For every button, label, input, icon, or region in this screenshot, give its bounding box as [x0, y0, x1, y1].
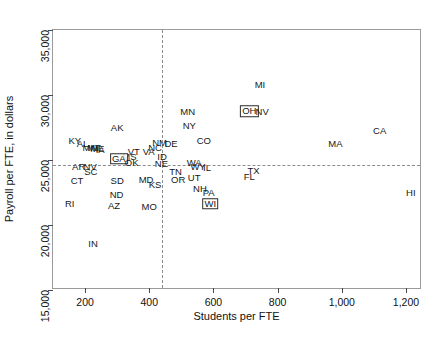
data-point-label: VA — [143, 147, 155, 157]
data-point-label: KS — [149, 180, 162, 190]
x-axis-tick-label: 1,000 — [329, 296, 355, 308]
data-point-label: AZ — [108, 201, 120, 211]
horizontal-reference-line — [53, 165, 420, 166]
data-point-label: ND — [110, 190, 124, 200]
x-axis-tick — [213, 288, 214, 293]
data-point-label: FL — [244, 172, 255, 182]
y-axis-tick-label: 30,000 — [39, 95, 51, 127]
x-axis-tick-label: 200 — [76, 296, 94, 308]
data-point-label: IL — [203, 163, 211, 173]
data-point-label: HI — [406, 188, 416, 198]
y-axis-title: Payroll per FTE, in dollars — [2, 29, 16, 289]
data-point-label: AK — [111, 123, 124, 133]
x-axis-tick — [406, 288, 407, 293]
x-axis-tick-label: 800 — [269, 296, 287, 308]
data-point-label: NV — [256, 107, 269, 117]
x-axis-tick — [278, 288, 279, 293]
x-axis-tick — [85, 288, 86, 293]
data-point-label: OK — [125, 158, 139, 168]
data-point-label: UT — [188, 173, 201, 183]
x-axis-tick — [149, 288, 150, 293]
data-point-label: DE — [164, 140, 177, 150]
y-axis-tick-label: 25,000 — [39, 160, 51, 192]
data-point-label: NY — [183, 121, 196, 131]
data-point-label: CA — [373, 126, 386, 136]
x-axis-tick-label: 600 — [205, 296, 223, 308]
data-point-label: MA — [328, 140, 342, 150]
data-point-label: CT — [71, 176, 84, 186]
y-axis-tick-label: 15,000 — [39, 290, 51, 322]
data-point-label: SD — [111, 176, 124, 186]
data-point-label: CO — [197, 136, 211, 146]
x-axis-title-text: Students per FTE — [193, 310, 279, 322]
data-point-label: PA — [203, 188, 215, 198]
data-point-label: ME — [90, 144, 104, 154]
y-axis-title-text: Payroll per FTE, in dollars — [3, 96, 15, 223]
y-axis-tick-label: 35,000 — [39, 30, 51, 62]
data-point-label: MN — [180, 107, 195, 117]
scatter-plot-figure: Payroll per FTE, in dollars 15,00020,000… — [0, 0, 438, 339]
data-point-label: SC — [84, 167, 97, 177]
data-point-label: MI — [255, 80, 266, 90]
y-axis-tick-label: 20,000 — [39, 225, 51, 257]
data-point-label: NE — [155, 159, 168, 169]
x-axis-tick — [342, 288, 343, 293]
data-point-label: MO — [142, 203, 157, 213]
figure-caption — [0, 325, 438, 336]
data-point-label: WI — [202, 198, 218, 210]
data-point-label: RI — [65, 199, 75, 209]
x-axis-tick-label: 1,200 — [393, 296, 419, 308]
data-point-label: OR — [171, 175, 185, 185]
x-axis-title: Students per FTE — [52, 310, 421, 322]
plot-area: 15,00020,00025,00030,00035,0002004006008… — [52, 29, 421, 289]
data-point-label: IN — [88, 239, 98, 249]
x-axis-tick-label: 400 — [140, 296, 158, 308]
